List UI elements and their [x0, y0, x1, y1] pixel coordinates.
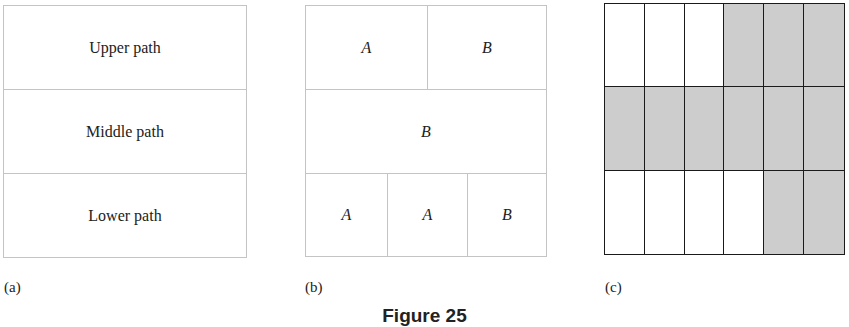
- cell-top-right: B: [427, 6, 546, 90]
- unshaded-cell: [724, 171, 764, 254]
- shaded-cell: [804, 4, 844, 87]
- shaded-cell: [804, 171, 844, 254]
- shaded-cell: [764, 4, 804, 87]
- cell-bottom-right: B: [467, 174, 546, 256]
- upper-path-row: Upper path: [4, 6, 246, 90]
- cell-bottom-middle: A: [387, 174, 467, 256]
- shaded-cell: [685, 87, 725, 170]
- panel-c-shaded-grid: [604, 3, 845, 255]
- shaded-cell: [764, 171, 804, 254]
- unshaded-cell: [605, 4, 645, 87]
- middle-path-row: Middle path: [4, 90, 246, 174]
- lower-path-row: Lower path: [4, 174, 246, 257]
- panel-a-paths-box: Upper path Middle path Lower path: [3, 5, 247, 258]
- panel-b-partition-box: A B B A A B: [305, 5, 547, 257]
- cell-top-left: A: [306, 6, 427, 90]
- panel-c-label: (c): [605, 279, 622, 296]
- cell-bottom-left: A: [306, 174, 387, 256]
- panel-a-label: (a): [4, 279, 21, 296]
- shaded-cell: [764, 87, 804, 170]
- figure-caption: Figure 25: [0, 305, 849, 327]
- unshaded-cell: [645, 171, 685, 254]
- unshaded-cell: [685, 4, 725, 87]
- unshaded-cell: [605, 171, 645, 254]
- unshaded-cell: [685, 171, 725, 254]
- unshaded-cell: [645, 4, 685, 87]
- cell-middle: B: [306, 90, 546, 174]
- shaded-cell: [724, 4, 764, 87]
- shaded-cell: [645, 87, 685, 170]
- shaded-cell: [724, 87, 764, 170]
- shaded-cell: [804, 87, 844, 170]
- panel-b-label: (b): [305, 279, 323, 296]
- shaded-cell: [605, 87, 645, 170]
